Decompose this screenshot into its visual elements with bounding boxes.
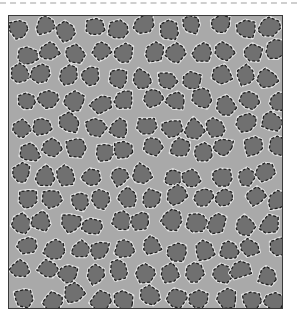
cell bbox=[82, 219, 103, 235]
cell bbox=[269, 190, 283, 209]
cell bbox=[86, 19, 105, 35]
cell bbox=[206, 118, 225, 137]
cell bbox=[244, 137, 262, 157]
cell bbox=[71, 240, 90, 257]
micrograph-frame bbox=[8, 15, 283, 309]
cell bbox=[192, 88, 212, 108]
cell bbox=[170, 138, 189, 156]
cell bbox=[167, 243, 186, 261]
cell bbox=[91, 242, 110, 259]
cell bbox=[259, 215, 278, 233]
cell bbox=[146, 42, 164, 62]
cell bbox=[161, 209, 182, 230]
cell bbox=[161, 20, 179, 39]
cell bbox=[213, 169, 232, 186]
top-dashed-line bbox=[0, 2, 297, 4]
cell bbox=[137, 118, 157, 133]
cell bbox=[194, 189, 214, 206]
cell bbox=[270, 238, 283, 255]
cell bbox=[66, 44, 86, 63]
cell-network-image bbox=[9, 16, 283, 309]
cell bbox=[60, 65, 78, 85]
cell bbox=[89, 96, 111, 114]
cell bbox=[37, 259, 59, 277]
